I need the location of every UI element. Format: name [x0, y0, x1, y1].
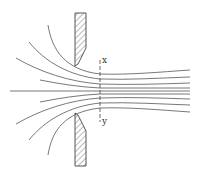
orifice-flow-diagram: x y: [0, 0, 198, 178]
lower-wall: [75, 113, 86, 166]
label-y: y: [102, 116, 107, 126]
upper-wall: [75, 13, 86, 66]
diagram-canvas: [0, 0, 198, 178]
label-x: x: [102, 55, 107, 65]
